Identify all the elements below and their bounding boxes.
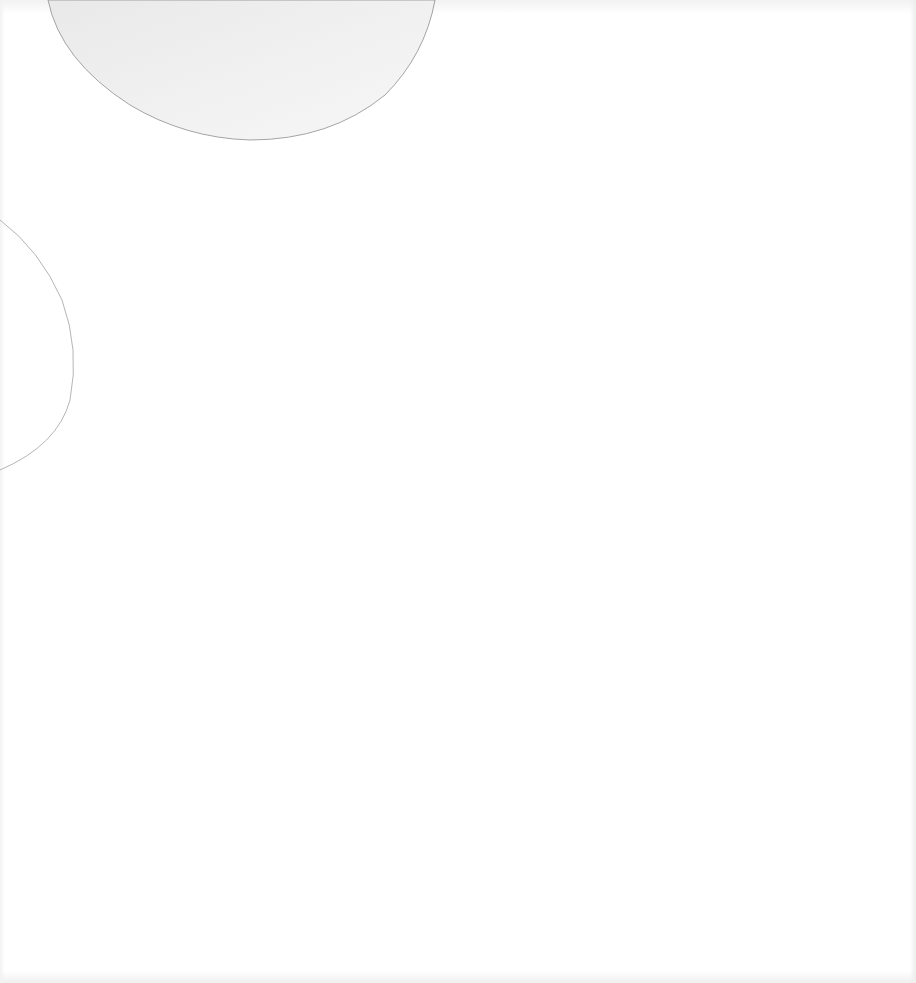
decorative-shapes [0, 0, 916, 983]
left-arc-shape [0, 220, 74, 470]
top-semicircle-shape [48, 0, 435, 140]
blank-page [0, 0, 916, 983]
